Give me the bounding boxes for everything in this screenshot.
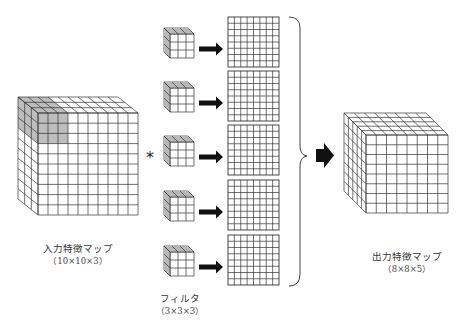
filter-cube — [164, 246, 194, 276]
filter-cube — [164, 191, 194, 221]
arrow-icon — [199, 43, 223, 56]
intermediate-feature-map — [228, 125, 279, 175]
arrow-icon — [199, 151, 223, 164]
input-map-dims: （10×10×3） — [28, 255, 128, 268]
big-arrow-icon — [316, 143, 334, 168]
filters-group — [164, 17, 279, 285]
filter-dims: （3×3×3） — [140, 305, 220, 318]
filter-label: フィルタ （3×3×3） — [140, 292, 220, 318]
filter-row — [164, 235, 279, 285]
intermediate-feature-map — [228, 71, 279, 121]
filter-row — [164, 17, 279, 67]
arrow-icon — [199, 206, 223, 219]
input-map-title: 入力特徴マップ — [28, 242, 128, 255]
input-map-label: 入力特徴マップ （10×10×3） — [28, 242, 128, 268]
filter-cube — [164, 82, 194, 112]
output-map-label: 出力特徴マップ （8×8×5） — [352, 250, 462, 276]
intermediate-feature-map — [228, 180, 279, 230]
grouping-brace — [289, 17, 307, 286]
convolution-operator: * — [146, 148, 154, 167]
filter-row — [164, 180, 279, 230]
filter-cube — [164, 136, 194, 166]
intermediate-feature-map — [228, 235, 279, 285]
filter-cube — [164, 28, 194, 58]
output-map-dims: （8×8×5） — [352, 263, 462, 276]
output-feature-map-cube — [344, 113, 448, 213]
filter-title: フィルタ — [140, 292, 220, 305]
intermediate-feature-map — [228, 17, 279, 67]
filter-row — [164, 71, 279, 121]
arrow-icon — [199, 97, 223, 110]
output-map-title: 出力特徴マップ — [352, 250, 462, 263]
filter-row — [164, 125, 279, 175]
arrow-icon — [199, 261, 223, 274]
input-feature-map-cube — [18, 97, 138, 215]
